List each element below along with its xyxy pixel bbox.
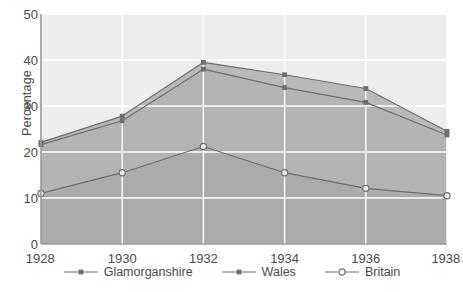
y-axis-tick-label: 50 (8, 7, 38, 22)
x-axis-tick-label: 1934 (270, 251, 299, 266)
legend-label: Wales (262, 266, 296, 279)
x-axis-tick-label: 1936 (351, 251, 380, 266)
data-point-britain (119, 170, 125, 176)
x-axis-tick-label: 1930 (108, 251, 137, 266)
data-point-glamorganshire (120, 114, 125, 119)
legend-label: Britain (365, 266, 400, 279)
legend-item-glamorganshire[interactable]: Glamorganshire (63, 266, 193, 279)
data-point-wales (445, 133, 450, 138)
data-point-wales (201, 67, 206, 72)
data-point-wales (363, 100, 368, 105)
chart-legend: GlamorganshireWalesBritain (0, 266, 463, 279)
data-point-britain (363, 185, 369, 191)
y-axis-tick-label: 40 (8, 53, 38, 68)
y-axis-tick-label: 0 (8, 237, 38, 252)
y-axis-tick-label: 30 (8, 99, 38, 114)
data-point-wales (120, 118, 125, 123)
legend-label: Glamorganshire (104, 266, 193, 279)
data-point-glamorganshire (201, 60, 206, 65)
y-axis-tick-label: 20 (8, 145, 38, 160)
y-axis-tick-label: 10 (8, 191, 38, 206)
data-point-britain (200, 143, 206, 149)
legend-filled-square-icon (63, 266, 99, 278)
data-point-britain (282, 170, 288, 176)
x-axis-tick-label: 1928 (26, 251, 55, 266)
data-point-britain (444, 193, 450, 199)
legend-item-britain[interactable]: Britain (324, 266, 400, 279)
chart-plot-area (0, 0, 463, 292)
x-axis-tick-label: 1938 (431, 251, 460, 266)
y-axis-tick-labels: 01020304050 (8, 0, 38, 292)
legend-filled-square-icon (221, 266, 257, 278)
data-point-wales (282, 85, 287, 90)
legend-item-wales[interactable]: Wales (221, 266, 296, 279)
data-point-glamorganshire (282, 72, 287, 77)
chart-container: Percentage 01020304050 19281930193219341… (0, 0, 463, 292)
data-point-glamorganshire (363, 86, 368, 91)
legend-open-circle-icon (324, 266, 360, 278)
x-axis-tick-label: 1932 (189, 251, 218, 266)
